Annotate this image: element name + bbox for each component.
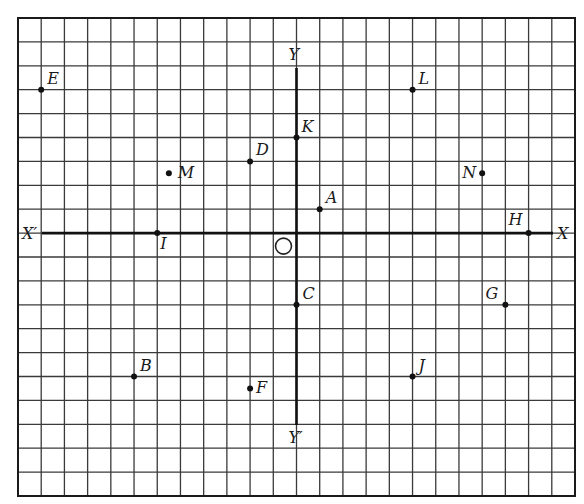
point-label: L: [418, 69, 430, 88]
point-label: C: [303, 284, 315, 303]
point-dot: [410, 87, 416, 93]
point-dot: [166, 170, 172, 176]
point-label: H: [508, 210, 524, 229]
y-axis-positive-label: Y: [289, 45, 301, 64]
point-dot: [410, 374, 416, 380]
point-label: E: [46, 69, 59, 88]
axes: X X′ Y Y′: [20, 45, 569, 447]
point-dot: [502, 302, 508, 308]
point-label: K: [301, 117, 315, 136]
point-label: J: [416, 356, 427, 375]
point-dot: [526, 230, 532, 236]
point-dot: [38, 87, 44, 93]
point-label: M: [177, 163, 195, 182]
point-dot: [479, 170, 485, 176]
point-label: D: [255, 140, 269, 159]
point-label: G: [485, 284, 498, 303]
y-axis-negative-label: Y′: [289, 428, 304, 447]
origin-label: [276, 238, 292, 254]
graph-paper: X X′ Y Y′ ABCDEFGHIJKLMN: [0, 0, 584, 504]
point-label: I: [159, 234, 167, 253]
point-label: B: [139, 356, 152, 375]
coordinate-plane-figure: X X′ Y Y′ ABCDEFGHIJKLMN: [0, 0, 584, 504]
point-dot: [294, 135, 300, 141]
point-label: F: [255, 378, 268, 397]
point-dot: [131, 374, 137, 380]
x-axis-negative-label: X′: [20, 224, 37, 243]
point-m: M: [166, 163, 195, 182]
point-dot: [317, 206, 323, 212]
point-label: A: [324, 188, 338, 207]
point-dot: [294, 302, 300, 308]
point-dot: [247, 385, 253, 391]
x-axis-positive-label: X: [555, 224, 569, 243]
point-label: N: [461, 163, 477, 182]
point-i: I: [154, 230, 167, 253]
point-dot: [247, 158, 253, 164]
